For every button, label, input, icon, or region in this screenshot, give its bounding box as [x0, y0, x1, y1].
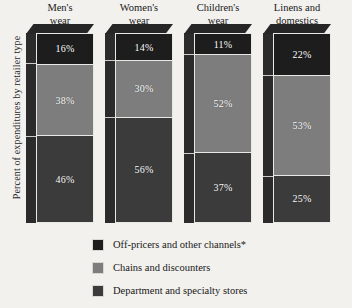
- bar-front-faces: 22%53%25%: [273, 33, 331, 223]
- bar-side-face: [184, 33, 194, 223]
- plot-area: 16%38%46%14%30%56%11%52%37%22%53%25%: [0, 33, 352, 225]
- bar-segment: 16%: [36, 33, 94, 64]
- bar-side-face: [26, 33, 36, 223]
- legend-item-off-pricers: Off-pricers and other channels*: [92, 233, 352, 256]
- bar-front-faces: 11%52%37%: [194, 33, 252, 223]
- category-label-womens: Women's wear: [110, 2, 168, 27]
- bar-segment: 46%: [36, 135, 94, 223]
- segment-value-label: 16%: [56, 43, 75, 54]
- legend-label-off-pricers: Off-pricers and other channels*: [113, 239, 246, 250]
- bar-segment: 25%: [273, 175, 331, 224]
- bar-segment: 14%: [115, 33, 173, 60]
- side-face-break: [184, 54, 194, 55]
- category-label-linens: Linens and domestics: [268, 2, 326, 27]
- side-face-break: [105, 117, 115, 118]
- side-face-break: [263, 176, 273, 177]
- segment-value-label: 56%: [135, 164, 154, 175]
- bar-segment: 53%: [273, 75, 331, 175]
- legend-label-chains: Chains and discounters: [113, 262, 210, 273]
- segment-value-label: 22%: [293, 49, 312, 60]
- legend-swatch-department: [92, 285, 104, 297]
- bar-childrens: 11%52%37%: [184, 33, 252, 223]
- category-label-mens: Men's wear: [31, 2, 89, 27]
- bar-front-faces: 16%38%46%: [36, 33, 94, 223]
- legend-swatch-off-pricers: [92, 239, 104, 251]
- bar-segment: 56%: [115, 117, 173, 223]
- chart-legend: Off-pricers and other channels* Chains a…: [92, 233, 352, 302]
- legend-item-department: Department and specialty stores: [92, 279, 352, 302]
- bar-segment: 22%: [273, 33, 331, 75]
- segment-value-label: 30%: [135, 83, 154, 94]
- bar-segment: 30%: [115, 60, 173, 117]
- segment-value-label: 53%: [293, 120, 312, 131]
- bar-front-faces: 14%30%56%: [115, 33, 173, 223]
- legend-item-chains: Chains and discounters: [92, 256, 352, 279]
- segment-value-label: 38%: [56, 95, 75, 106]
- bar-linens: 22%53%25%: [263, 33, 331, 223]
- side-face-break: [105, 60, 115, 61]
- category-label-childrens: Children's wear: [189, 2, 247, 27]
- segment-value-label: 37%: [214, 182, 233, 193]
- bar-mens: 16%38%46%: [26, 33, 94, 223]
- bar-segment: 11%: [194, 33, 252, 54]
- segment-value-label: 46%: [56, 174, 75, 185]
- side-face-break: [184, 153, 194, 154]
- bar-side-face: [105, 33, 115, 223]
- segment-value-label: 25%: [293, 193, 312, 204]
- legend-swatch-chains: [92, 262, 104, 274]
- bar-segment: 38%: [36, 64, 94, 136]
- side-face-break: [26, 136, 36, 137]
- side-face-break: [263, 75, 273, 76]
- bar-side-face: [263, 33, 273, 223]
- bar-segment: 37%: [194, 152, 252, 223]
- legend-label-department: Department and specialty stores: [113, 285, 247, 296]
- segment-value-label: 14%: [135, 42, 154, 53]
- bar-segment: 52%: [194, 54, 252, 152]
- segment-value-label: 52%: [214, 98, 233, 109]
- segment-value-label: 11%: [214, 39, 233, 50]
- bar-womens: 14%30%56%: [105, 33, 173, 223]
- stacked-bar-chart: Percent of expenditures by retailer type…: [0, 0, 352, 308]
- side-face-break: [26, 63, 36, 64]
